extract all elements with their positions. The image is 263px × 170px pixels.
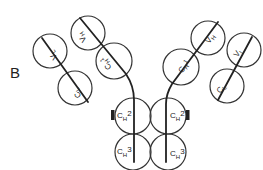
- label-right-vh: VH: [203, 32, 217, 46]
- domain-left-vh: [71, 16, 105, 50]
- label-right-ch3: CH3: [170, 147, 185, 160]
- label-left-ch3: CH3: [117, 145, 132, 158]
- label-right-ch2: CH2: [170, 109, 185, 122]
- domain-right-cl: [210, 69, 244, 103]
- label-left-ch2: CH2: [117, 109, 132, 122]
- domain-left-vl: [33, 34, 67, 68]
- label-right-vl: VL: [232, 46, 246, 59]
- hinge-marker-left: [111, 110, 115, 120]
- antibody-diagram: VH VL CH1 CL VH VL CH1 CL CH2 CH2 CH3 CH…: [0, 0, 263, 170]
- label-left-vh: VH: [75, 30, 89, 44]
- hinge-marker-right: [186, 110, 190, 120]
- label-left-cl: CL: [70, 86, 84, 100]
